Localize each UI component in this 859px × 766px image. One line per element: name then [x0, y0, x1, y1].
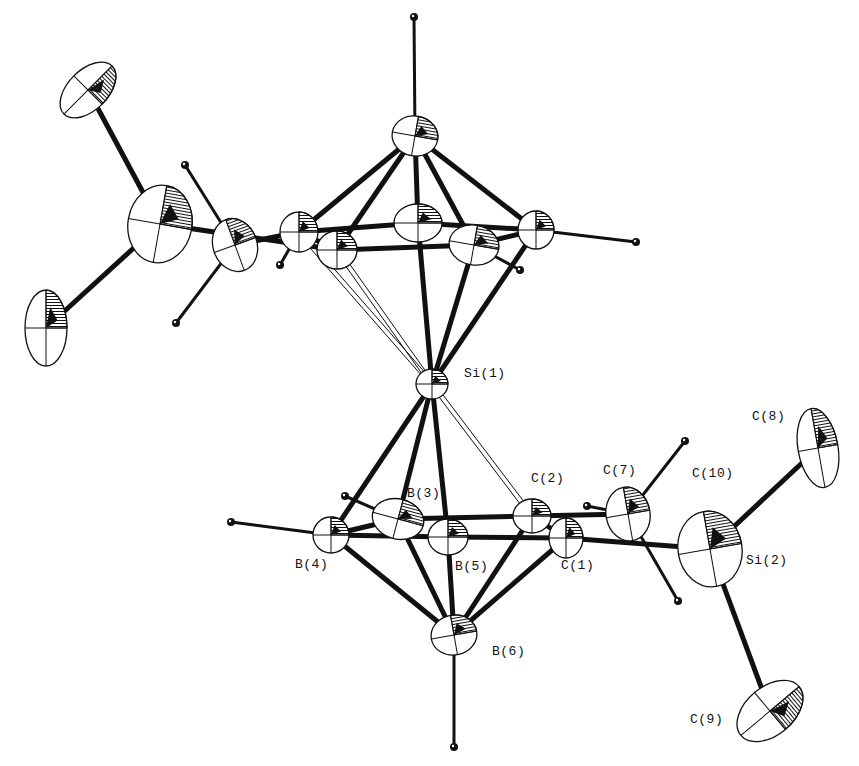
hydrogen-atom-H_tC2	[276, 261, 284, 269]
atom-label-C2: C(2)	[531, 471, 564, 486]
atom-ellipsoid-B5	[428, 519, 468, 555]
atom-label-Si2: Si(2)	[746, 553, 788, 568]
hydrogen-atom-H_tB6	[410, 13, 418, 21]
atom-ellipsoid-tC8	[50, 52, 126, 128]
atom-ellipsoid-tC9	[25, 290, 67, 366]
atom-label-C9: C(9)	[690, 712, 723, 727]
atom-ellipsoid-tSi2	[122, 180, 199, 268]
hydrogen-atom-H_tB4	[632, 238, 640, 246]
atom-ellipsoid-tB3	[394, 204, 442, 242]
atom-ellipsoid-tC1	[317, 231, 357, 269]
atom-label-B5: B(5)	[455, 559, 488, 574]
atom-label-C1: C(1)	[561, 558, 594, 573]
atom-label-C7: C(7)	[603, 463, 636, 478]
atom-layer	[25, 13, 845, 754]
atom-ellipsoid-tB4	[518, 211, 554, 249]
atom-label-C8: C(8)	[752, 409, 785, 424]
atom-ellipsoid-C2	[513, 499, 551, 533]
hydrogen-atom-H_C7b	[583, 502, 591, 510]
hydrogen-atom-H_C7c	[674, 597, 682, 605]
atom-ellipsoid-Si2	[672, 506, 748, 592]
atom-ellipsoid-Si1	[416, 369, 448, 399]
atom-ellipsoid-C1	[549, 518, 583, 558]
bond-Si1-tB5	[432, 245, 474, 384]
hydrogen-atom-H_tC7b	[172, 319, 180, 327]
atom-ellipsoid-C8	[791, 405, 844, 491]
atom-label-B6: B(6)	[492, 644, 525, 659]
atom-label-B4: B(4)	[295, 557, 328, 572]
hydrogen-atom-H_C7a	[681, 437, 689, 445]
bond-Si1-tC1	[335, 249, 434, 386]
hydrogen-atom-H_B6	[450, 743, 458, 751]
atom-label-C10: C(10)	[692, 466, 734, 481]
hydrogen-atom-H_B3	[341, 492, 349, 500]
hydrogen-atom-H_tB5	[516, 266, 524, 274]
molecule-drawing	[0, 0, 859, 766]
atom-label-Si1: Si(1)	[464, 366, 506, 381]
atom-ellipsoid-tC2	[280, 212, 318, 252]
atom-ellipsoid-tC7	[205, 212, 265, 278]
hydrogen-atom-H_tC7a	[181, 161, 189, 169]
atom-ellipsoid-B4	[313, 517, 349, 553]
ortep-diagram: Si(1)B(3)C(2)C(7)C(10)C(8)B(4)B(5)C(1)Si…	[0, 0, 859, 766]
atom-label-B3: B(3)	[407, 486, 440, 501]
hydrogen-atom-H_B4	[227, 518, 235, 526]
atom-ellipsoid-C9	[725, 668, 814, 754]
bond-Si1-B5	[432, 384, 448, 537]
